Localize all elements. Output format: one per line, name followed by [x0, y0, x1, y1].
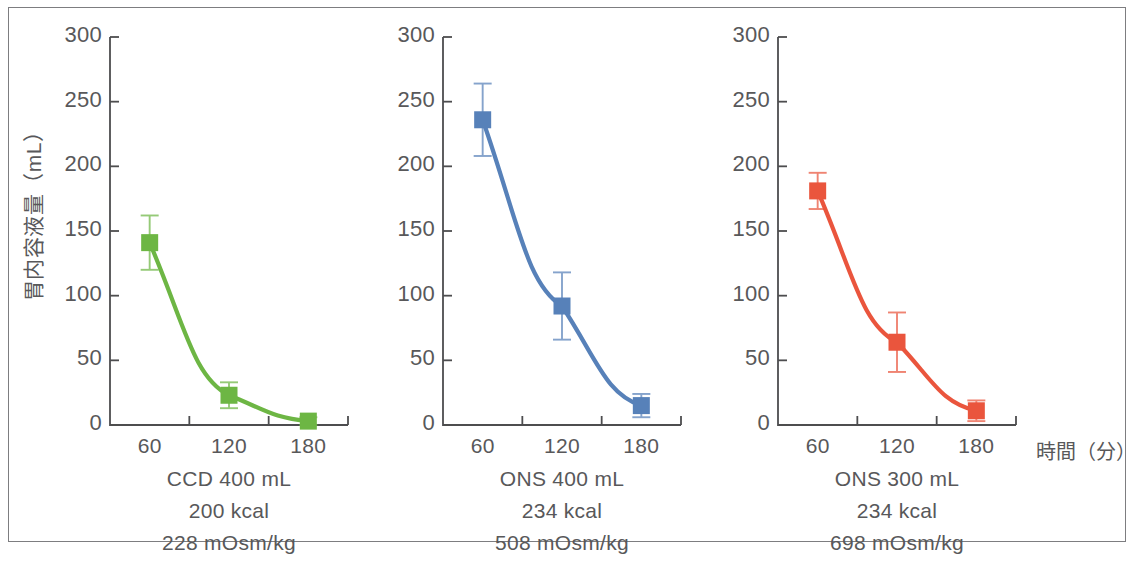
y-tick-label: 250: [44, 87, 102, 113]
data-point-marker: [300, 413, 317, 430]
chart-figure: 胃内容液量（mL） 時間（分） 050100150200250300601201…: [0, 0, 1136, 567]
y-tick-label: 150: [377, 216, 435, 242]
data-point-marker: [554, 298, 571, 315]
x-tick-label: 60: [115, 434, 185, 458]
data-point-marker: [889, 334, 906, 351]
y-tick-label: 200: [44, 151, 102, 177]
data-point-marker: [809, 182, 826, 199]
x-tick-label: 120: [527, 434, 597, 458]
y-tick-label: 150: [44, 216, 102, 242]
x-tick-label: 60: [448, 434, 518, 458]
y-tick-label: 150: [712, 216, 770, 242]
y-tick-label: 200: [377, 151, 435, 177]
y-tick-label: 200: [712, 151, 770, 177]
y-tick-label: 300: [377, 22, 435, 48]
panel-caption-line: 200 kcal: [80, 499, 378, 523]
x-tick-label: 180: [273, 434, 343, 458]
y-tick-label: 100: [44, 281, 102, 307]
x-tick-label: 60: [783, 434, 853, 458]
y-tick-label: 300: [712, 22, 770, 48]
y-tick-label: 0: [377, 410, 435, 436]
y-tick-label: 0: [44, 410, 102, 436]
series-line: [818, 191, 977, 411]
panel-caption-line: 234 kcal: [413, 499, 711, 523]
y-tick-label: 250: [377, 87, 435, 113]
x-tick-label: 120: [862, 434, 932, 458]
panel-caption-line: 698 mOsm/kg: [748, 531, 1046, 555]
x-tick-label: 180: [606, 434, 676, 458]
y-tick-label: 100: [377, 281, 435, 307]
panel-caption-line: 228 mOsm/kg: [80, 531, 378, 555]
y-tick-label: 250: [712, 87, 770, 113]
data-point-marker: [968, 402, 985, 419]
y-tick-label: 300: [44, 22, 102, 48]
panel-caption-line: ONS 400 mL: [413, 467, 711, 491]
data-point-marker: [221, 387, 238, 404]
y-tick-label: 50: [712, 345, 770, 371]
series-line: [483, 120, 642, 406]
data-point-marker: [141, 234, 158, 251]
panel-caption-line: 234 kcal: [748, 499, 1046, 523]
panel-caption-line: CCD 400 mL: [80, 467, 378, 491]
y-tick-label: 50: [44, 345, 102, 371]
x-tick-label: 180: [941, 434, 1011, 458]
x-tick-label: 120: [194, 434, 264, 458]
data-point-marker: [633, 397, 650, 414]
y-tick-label: 100: [712, 281, 770, 307]
data-point-marker: [474, 111, 491, 128]
y-tick-label: 50: [377, 345, 435, 371]
panel-caption-line: ONS 300 mL: [748, 467, 1046, 491]
panel-caption-line: 508 mOsm/kg: [413, 531, 711, 555]
y-tick-label: 0: [712, 410, 770, 436]
